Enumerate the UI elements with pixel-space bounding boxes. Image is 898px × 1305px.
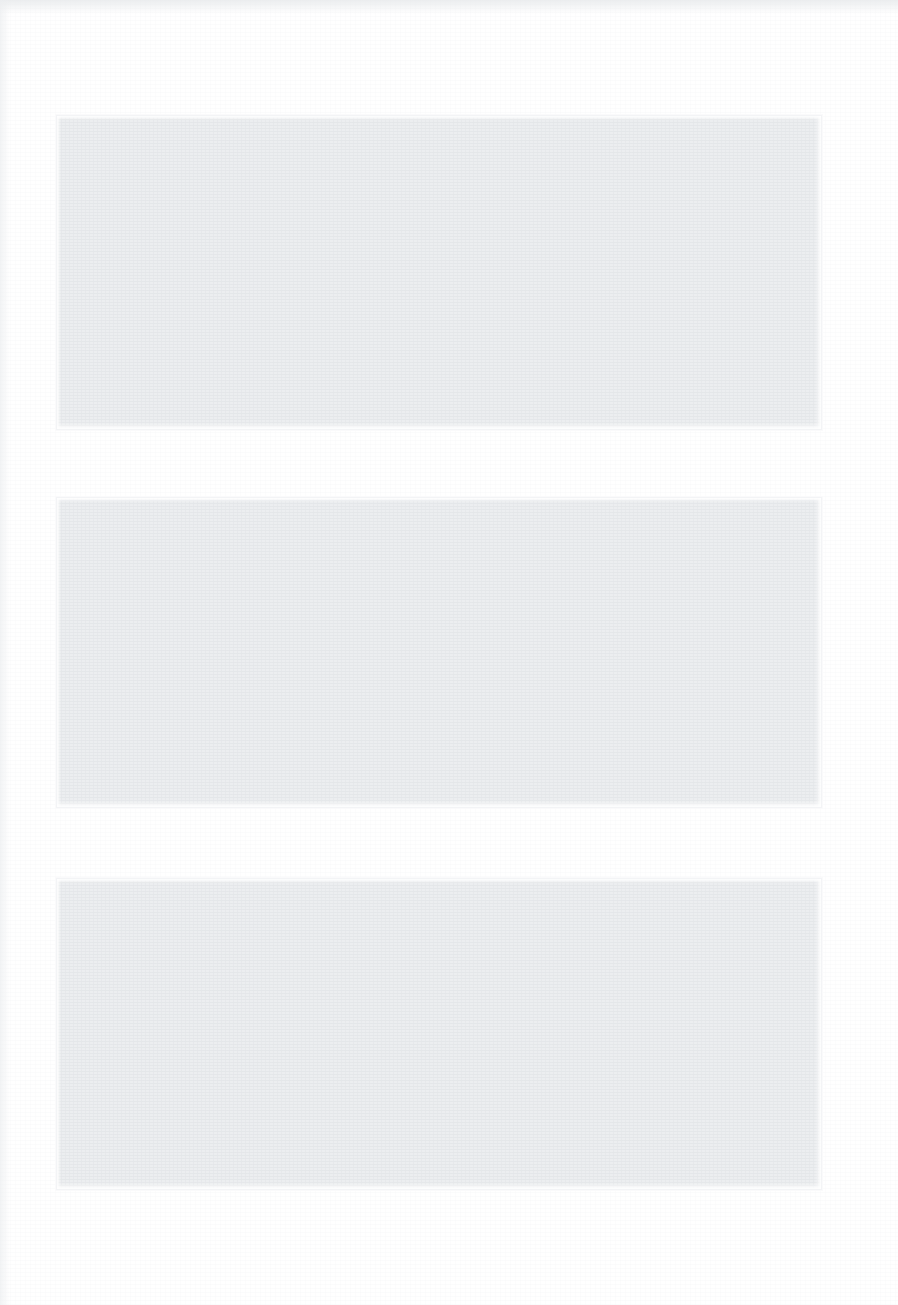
faded-text-texture [57,879,821,1189]
content-block-2-label [57,498,58,499]
content-block-3-label [57,879,58,880]
content-block-2 [56,497,822,808]
document-page [0,0,898,1305]
left-edge-shading [0,0,10,1305]
faded-text-texture [57,116,821,429]
top-edge-shading [0,0,898,14]
content-block-1 [56,115,822,430]
content-block-3 [56,878,822,1190]
content-block-1-label [57,116,58,117]
faded-text-texture [57,498,821,807]
